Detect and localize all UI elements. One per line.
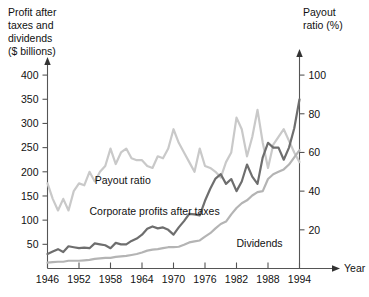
left-axis-title-line-3: dividends: [8, 32, 52, 44]
x-tick-label: 1994: [288, 273, 312, 285]
right-axis-arrow-icon: [296, 49, 302, 57]
x-tick-label: 1952: [67, 273, 91, 285]
payout-ratio-chart: Profit after taxes and dividends ($ bill…: [0, 0, 369, 297]
x-tick-label: 1970: [162, 273, 186, 285]
x-tick-label: 1958: [99, 273, 123, 285]
left-tick-label: 400: [21, 69, 39, 81]
right-axis-title: Payout ratio (%): [303, 6, 343, 31]
left-tick-label: 300: [21, 117, 39, 129]
left-tick-label: 350: [21, 93, 39, 105]
x-axis-ticks: 194619521958196419701976198219881994: [36, 263, 312, 285]
x-tick-label: 1988: [256, 273, 280, 285]
left-tick-label: 200: [21, 166, 39, 178]
series-annotations: Payout ratioCorporate profits after taxe…: [90, 174, 283, 249]
left-tick-label: 150: [21, 190, 39, 202]
x-tick-label: 1964: [130, 273, 154, 285]
x-tick-label: 1976: [193, 273, 217, 285]
right-axis-title-line-2: ratio (%): [303, 19, 343, 31]
right-tick-label: 80: [309, 108, 321, 120]
series-label-corporate-profits-after-taxes: Corporate profits after taxes: [90, 205, 220, 217]
right-axis-title-line-1: Payout: [303, 6, 336, 18]
left-axis-title-line-4: ($ billions): [8, 45, 56, 57]
x-axis-arrow-icon: [332, 265, 340, 271]
left-axis-title: Profit after taxes and dividends ($ bill…: [8, 6, 57, 57]
left-axis-ticks: 50100150200250300350400: [21, 69, 48, 250]
right-tick-label: 40: [309, 185, 321, 197]
axes: [44, 49, 340, 272]
left-tick-label: 250: [21, 141, 39, 153]
x-axis-label: Year: [344, 262, 366, 274]
left-tick-label: 50: [27, 238, 39, 250]
right-tick-label: 60: [309, 146, 321, 158]
series-line-corporate-profits-after-taxes: [48, 99, 300, 254]
right-tick-label: 100: [309, 69, 327, 81]
right-axis-ticks: 20406080100: [300, 69, 327, 236]
x-tick-label: 1982: [225, 273, 249, 285]
left-axis-title-line-1: Profit after: [8, 6, 57, 18]
series-label-dividends: Dividends: [237, 237, 283, 249]
left-axis-arrow-icon: [44, 57, 50, 65]
x-tick-label: 1946: [36, 273, 60, 285]
left-axis-title-line-2: taxes and: [8, 19, 54, 31]
right-tick-label: 20: [309, 224, 321, 236]
chart-canvas: Profit after taxes and dividends ($ bill…: [0, 0, 369, 297]
left-tick-label: 100: [21, 214, 39, 226]
series-label-payout-ratio: Payout ratio: [95, 174, 151, 186]
